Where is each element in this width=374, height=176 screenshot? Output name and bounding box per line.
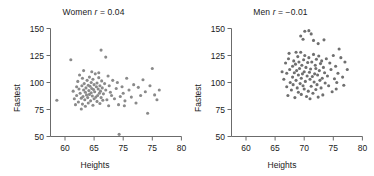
data-point <box>317 96 320 99</box>
data-point <box>155 98 158 101</box>
data-point <box>308 78 311 81</box>
data-point <box>80 107 83 110</box>
data-point <box>326 74 329 77</box>
data-point <box>314 64 317 67</box>
data-point <box>134 101 137 104</box>
y-tick-men-4: 150 <box>211 24 225 34</box>
data-point <box>295 69 298 72</box>
data-point <box>141 78 144 81</box>
data-point <box>148 84 151 87</box>
x-tick-women-3: 75 <box>148 143 158 153</box>
data-point <box>325 57 328 60</box>
data-point <box>327 84 330 87</box>
data-point <box>318 69 321 72</box>
data-point <box>108 84 111 87</box>
data-point <box>292 59 295 62</box>
x-ticks-women: 60 65 75 75 80 <box>60 137 186 154</box>
panel-women: Women r = 0.04 Fastest Heights 50 75 100… <box>0 0 187 176</box>
data-point <box>79 92 82 95</box>
data-point <box>117 103 120 106</box>
data-point <box>316 73 319 76</box>
data-point <box>333 77 336 80</box>
data-point <box>310 32 313 35</box>
data-point <box>127 89 130 92</box>
data-point <box>99 90 102 93</box>
data-point <box>323 71 326 74</box>
x-tick-women-2: 75 <box>118 143 128 153</box>
data-point <box>105 98 108 101</box>
data-point <box>97 76 100 79</box>
data-point <box>76 80 79 83</box>
data-point <box>83 82 86 85</box>
x-tick-men-0: 60 <box>241 143 251 153</box>
data-point <box>98 102 101 105</box>
data-point <box>100 79 103 82</box>
data-point <box>101 86 104 89</box>
x-tick-women-0: 60 <box>60 143 70 153</box>
data-point <box>314 67 317 70</box>
data-point <box>146 112 149 115</box>
data-point <box>320 86 323 89</box>
data-point <box>109 91 112 94</box>
data-point <box>113 97 116 100</box>
data-point <box>301 84 304 87</box>
data-point <box>319 62 322 65</box>
data-point <box>82 69 85 72</box>
y-tick-men-3: 125 <box>211 51 225 61</box>
data-point <box>310 60 313 63</box>
data-point <box>296 86 299 89</box>
data-point <box>309 67 312 70</box>
data-point <box>288 52 291 55</box>
data-point <box>336 72 339 75</box>
data-point <box>308 97 311 100</box>
data-point <box>90 81 93 84</box>
data-point <box>103 82 106 85</box>
data-point <box>311 92 314 95</box>
data-point <box>289 81 292 84</box>
data-point <box>281 70 284 73</box>
data-point <box>137 86 140 89</box>
x-tick-men-2: 70 <box>299 143 309 153</box>
data-point <box>123 104 126 107</box>
data-point <box>72 90 75 93</box>
data-point <box>84 86 87 89</box>
data-point <box>331 90 334 93</box>
data-point <box>335 87 338 90</box>
data-point <box>287 57 290 60</box>
data-point <box>282 78 285 81</box>
data-point <box>306 61 309 64</box>
data-point <box>144 90 147 93</box>
data-point <box>95 100 98 103</box>
data-point <box>91 104 94 107</box>
data-point <box>297 60 300 63</box>
data-point <box>78 73 81 76</box>
data-point <box>300 64 303 67</box>
data-point <box>69 58 72 61</box>
data-point <box>111 79 114 82</box>
data-point <box>55 99 58 102</box>
data-point <box>81 103 84 106</box>
data-point <box>139 94 142 97</box>
data-point <box>102 92 105 95</box>
y-tick-women-4: 150 <box>30 24 44 34</box>
data-point <box>321 77 324 80</box>
y-tick-women-2: 100 <box>30 78 44 88</box>
data-point <box>97 87 100 90</box>
data-point <box>74 103 77 106</box>
data-point <box>307 90 310 93</box>
data-point <box>293 96 296 99</box>
data-point <box>80 84 83 87</box>
data-point <box>100 49 103 52</box>
data-point <box>320 59 323 62</box>
data-point <box>93 83 96 86</box>
data-point <box>94 72 97 75</box>
data-point <box>305 95 308 98</box>
data-point <box>81 95 84 98</box>
data-point <box>151 67 154 70</box>
data-point <box>338 47 341 50</box>
y-ticks-men: 50 75 100 125 150 <box>211 24 232 142</box>
y-ticks-women: 50 75 100 125 150 <box>30 24 51 142</box>
data-point <box>311 75 314 78</box>
x-tick-women-1: 65 <box>89 143 99 153</box>
plot-area-women: 50 75 100 125 150 60 65 75 75 80 <box>0 0 187 176</box>
